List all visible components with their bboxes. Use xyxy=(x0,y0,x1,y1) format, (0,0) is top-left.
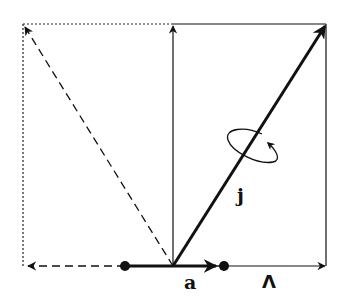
reflected-dashed-vector-arrow xyxy=(25,27,173,266)
label-lambda: Λ xyxy=(262,273,276,291)
label-j: j xyxy=(237,186,244,205)
label-a: a xyxy=(184,273,196,292)
vector-diagram: a Λ j xyxy=(0,0,345,298)
precession-ellipse-icon xyxy=(228,129,278,162)
left-dot xyxy=(120,261,130,271)
diagram-canvas xyxy=(0,0,345,298)
j-vector-arrow xyxy=(173,26,325,266)
right-dot xyxy=(219,261,229,271)
